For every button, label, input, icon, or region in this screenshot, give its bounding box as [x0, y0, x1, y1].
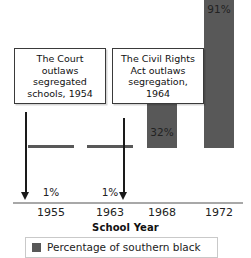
annotation-arrow-shaft-civil-rights: [123, 118, 125, 194]
bar-1955: [28, 145, 74, 148]
annotation-arrow-head-court: [21, 192, 29, 200]
bar-1972: [204, 0, 234, 148]
x-tick-1968: 1968: [137, 206, 187, 220]
annotation-arrow-shaft-court: [25, 112, 27, 194]
x-tick-1972: 1972: [194, 206, 244, 220]
legend-swatch-icon: [32, 243, 41, 252]
legend-label: Percentage of southern black: [47, 241, 201, 254]
bar-value-label-1972: 91%: [200, 3, 238, 15]
annotation-court-ruling: The Court outlaws segregated schools, 19…: [14, 48, 106, 104]
annotation-civil-rights-act: The Civil Rights Act outlaws segregation…: [112, 48, 204, 104]
chart-legend: Percentage of southern black: [25, 237, 218, 258]
bar-1963: [87, 145, 133, 148]
plot-area: 1% 1% 32% 91% The Court outlaws segregat…: [0, 0, 251, 204]
x-axis-line: [13, 202, 243, 204]
x-tick-1963: 1963: [85, 206, 135, 220]
bar-value-label-1955: 1%: [28, 186, 74, 198]
annotation-arrow-head-civil-rights: [119, 192, 127, 200]
bar-chart: 1% 1% 32% 91% The Court outlaws segregat…: [0, 0, 251, 258]
x-tick-1955: 1955: [26, 206, 76, 220]
x-axis-title: School Year: [0, 221, 251, 234]
bar-value-label-1968: 32%: [147, 126, 177, 138]
